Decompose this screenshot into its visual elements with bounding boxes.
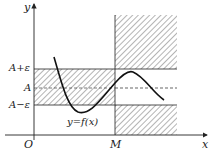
- upper-bound-label: A+ε: [9, 63, 30, 73]
- y-axis-label: y: [24, 2, 30, 13]
- band-region: [34, 69, 115, 105]
- lower-excluded-region: [115, 105, 177, 135]
- origin-label: O: [24, 139, 33, 150]
- limit-label: A: [24, 83, 31, 93]
- upper-excluded-region: [115, 15, 177, 69]
- x-axis-label: x: [202, 139, 208, 150]
- limit-diagram: [0, 0, 211, 159]
- lower-bound-label: A−ε: [9, 100, 30, 110]
- threshold-label: M: [110, 139, 121, 150]
- curve-label: y=f(x): [67, 117, 98, 127]
